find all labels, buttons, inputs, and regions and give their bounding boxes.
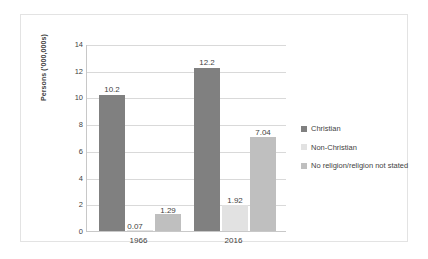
bar-1966-no-religion[interactable] [155,214,181,231]
legend-swatch-icon-non-christian [301,144,307,150]
bar-chart-figure: Persons ('000,000s) 14 12 10 8 6 4 2 0 [0,0,428,259]
bar-label-1966-no-religion: 1.29 [152,207,184,215]
y-tick-12: 12 [63,68,83,76]
bar-label-1966-christian: 10.2 [96,86,128,94]
y-axis-tick-labels: 14 12 10 8 6 4 2 0 [59,45,83,232]
x-tick-1966: 1966 [96,237,181,245]
bar-label-2016-christian: 12.2 [191,59,223,67]
bar-1966-christian[interactable] [99,95,125,231]
bar-label-1966-non-christian: 0.07 [119,223,151,231]
legend-label-christian: Christian [311,125,341,133]
bar-2016-no-religion[interactable] [250,137,276,231]
y-tick-10: 10 [63,94,83,102]
y-tick-8: 8 [63,121,83,129]
legend-item-non-christian[interactable]: Non-Christian [301,144,421,152]
bar-group-1966: 10.2 0.07 1.29 [97,45,182,231]
chart-frame: Persons ('000,000s) 14 12 10 8 6 4 2 0 [20,14,408,242]
y-tick-0: 0 [63,228,83,236]
y-tick-6: 6 [63,148,83,156]
y-tick-14: 14 [63,41,83,49]
plot-area: 10.2 0.07 1.29 12.2 1.92 7.04 [86,45,286,232]
bar-2016-non-christian[interactable] [222,205,248,231]
y-tick-2: 2 [63,201,83,209]
legend-swatch-icon-christian [301,126,307,132]
bar-label-2016-non-christian: 1.92 [219,197,251,205]
chart-legend: Christian Non-Christian No religion/reli… [301,125,421,181]
x-tick-2016: 2016 [191,237,276,245]
legend-item-christian[interactable]: Christian [301,125,421,133]
legend-swatch-icon-no-religion [301,163,307,169]
legend-label-no-religion: No religion/religion not stated [311,162,408,170]
legend-item-no-religion[interactable]: No religion/religion not stated [301,162,421,170]
legend-label-non-christian: Non-Christian [311,144,357,152]
y-tick-4: 4 [63,175,83,183]
y-axis-title: Persons ('000,000s) [40,34,47,101]
bar-group-2016: 12.2 1.92 7.04 [192,45,277,231]
bar-label-2016-no-religion: 7.04 [247,129,279,137]
bar-2016-christian[interactable] [194,68,220,231]
